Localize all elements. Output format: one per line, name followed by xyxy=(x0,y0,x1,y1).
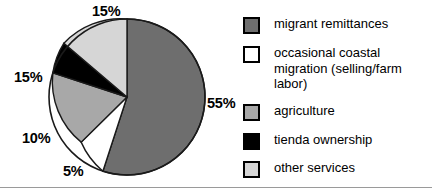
legend-label-occasional-coastal-migration: occasional coastal migration (selling/fa… xyxy=(274,45,426,92)
legend-item-migrant-remittances[interactable]: migrant remittances xyxy=(243,16,388,34)
chart-legend: migrant remittances occasional coastal m… xyxy=(243,8,429,178)
data-label-migrant-remittances: 55% xyxy=(207,95,235,111)
legend-item-agriculture[interactable]: agriculture xyxy=(243,103,335,121)
data-label-occasional-coastal-migration: 5% xyxy=(63,163,84,179)
legend-swatch-occasional-coastal-migration xyxy=(243,46,260,63)
figure-bottom-rule xyxy=(0,187,432,188)
legend-swatch-tienda-ownership xyxy=(243,133,260,150)
legend-label-tienda-ownership: tienda ownership xyxy=(274,132,372,148)
legend-item-occasional-coastal-migration[interactable]: occasional coastal migration (selling/fa… xyxy=(243,45,426,92)
data-label-other-services: 15% xyxy=(92,3,120,19)
data-label-tienda-ownership: 15% xyxy=(14,69,42,85)
pie-chart-plot-area: 55% 5% 10% 15% 15% xyxy=(0,0,216,194)
legend-label-agriculture: agriculture xyxy=(274,103,335,119)
pie-chart-figure: 55% 5% 10% 15% 15% migrant remittances o… xyxy=(0,0,432,194)
legend-swatch-other-services xyxy=(243,161,260,178)
legend-item-other-services[interactable]: other services xyxy=(243,160,355,178)
legend-label-other-services: other services xyxy=(274,160,355,176)
pie-chart-svg xyxy=(0,0,216,194)
legend-item-tienda-ownership[interactable]: tienda ownership xyxy=(243,132,372,150)
legend-swatch-migrant-remittances xyxy=(243,17,260,34)
legend-label-migrant-remittances: migrant remittances xyxy=(274,16,388,32)
data-label-agriculture: 10% xyxy=(22,130,50,146)
legend-swatch-agriculture xyxy=(243,104,260,121)
